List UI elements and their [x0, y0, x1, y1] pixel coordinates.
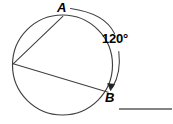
point-label-a: A: [57, 1, 66, 14]
chord-vertex-to-a: [13, 16, 63, 63]
geometry-drawing: [0, 0, 173, 124]
geometry-figure: A B 120°: [0, 0, 173, 124]
chord-vertex-to-b: [13, 64, 108, 92]
arc-measure-label: 120°: [102, 32, 128, 45]
circle-outline: [13, 15, 113, 115]
angle-arc-lower: [112, 52, 119, 88]
point-label-b: B: [105, 91, 114, 104]
angle-arc-upper: [71, 9, 115, 34]
